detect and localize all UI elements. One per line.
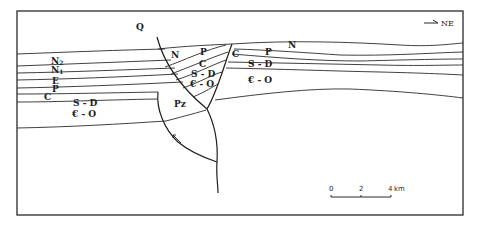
- label-co-wedge: € - O: [189, 79, 214, 89]
- cross-section-diagram: Q N2 N1 E P C S - D € - O N P C S - D € …: [0, 0, 481, 228]
- label-p-wedge: P: [200, 47, 207, 57]
- label-co-left: € - O: [71, 109, 96, 119]
- arrow-right-icon: [424, 20, 438, 23]
- label-c-left: C: [44, 92, 51, 102]
- basement-block-strata: [166, 110, 206, 121]
- label-c-wedge: C: [199, 59, 206, 69]
- label-sd-wedge: S - D: [191, 69, 216, 79]
- label-sd-left: S - D: [73, 98, 98, 108]
- scale-tick-2: 2: [359, 185, 363, 193]
- scale-bar: 0 2 4 km: [329, 185, 405, 197]
- scale-tick-4: 4: [388, 185, 393, 193]
- scale-tick-0: 0: [329, 185, 333, 193]
- label-q: Q: [136, 22, 144, 32]
- scale-unit: km: [394, 185, 405, 193]
- label-n1: N1: [51, 65, 63, 75]
- right-block-strata: [215, 42, 463, 100]
- label-p-left: P: [52, 84, 59, 94]
- label-n-wedge: N: [171, 50, 179, 60]
- left-block-strata: [17, 49, 183, 128]
- label-co-right: € - O: [247, 75, 272, 85]
- label-n-right: N: [288, 40, 296, 50]
- label-pz: Pz: [174, 99, 186, 109]
- label-c-right: C: [232, 49, 239, 59]
- pz-west-fault: [158, 92, 217, 162]
- orientation-indicator: NE: [424, 19, 454, 28]
- orientation-label: NE: [441, 19, 454, 28]
- label-sd-right: S - D: [248, 59, 273, 69]
- lower-fault: [207, 109, 218, 193]
- label-p-right: P: [265, 47, 272, 57]
